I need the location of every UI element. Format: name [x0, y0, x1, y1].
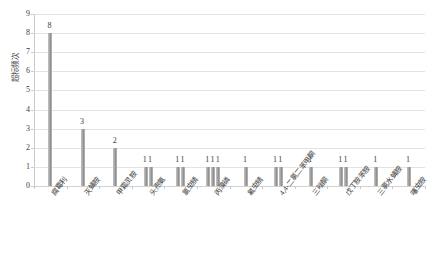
- bar-group[interactable]: 8: [34, 14, 67, 186]
- x-axis-tick-mark: [34, 186, 35, 189]
- bar[interactable]: [279, 167, 283, 186]
- x-axis-tick-mark: [164, 186, 165, 189]
- bar-group[interactable]: 1: [230, 14, 263, 186]
- bar[interactable]: [309, 167, 313, 186]
- y-axis-tick-label: 1: [8, 163, 30, 171]
- bar[interactable]: [211, 167, 215, 186]
- bar[interactable]: [244, 167, 248, 186]
- bar[interactable]: [48, 33, 52, 186]
- bar-group[interactable]: 2: [99, 14, 132, 186]
- y-axis-tick-label: 7: [8, 48, 30, 56]
- bar-group[interactable]: 11: [262, 14, 295, 186]
- x-axis-tick-mark: [132, 186, 133, 189]
- bar-group[interactable]: 11: [327, 14, 360, 186]
- x-axis-tick-mark: [67, 186, 68, 189]
- bar-group[interactable]: 11: [164, 14, 197, 186]
- bar-value-label: 8: [48, 22, 54, 30]
- bar-group[interactable]: 3: [67, 14, 100, 186]
- bar[interactable]: [344, 167, 348, 186]
- bar-value-label: 11: [175, 156, 186, 164]
- y-axis-tick-label: 4: [8, 106, 30, 114]
- y-axis-tick-label: 9: [8, 10, 30, 18]
- x-axis-tick-mark: [425, 186, 426, 189]
- y-axis-tick-label: 0: [8, 182, 30, 190]
- bar[interactable]: [339, 167, 343, 186]
- bar-group[interactable]: 11: [132, 14, 165, 186]
- bar-value-label: 11: [143, 156, 154, 164]
- bar-value-label: 2: [113, 137, 119, 145]
- bar-value-label: 1: [406, 156, 412, 164]
- bar[interactable]: [176, 167, 180, 186]
- bar-group[interactable]: 1: [360, 14, 393, 186]
- x-axis-tick-mark: [295, 186, 296, 189]
- bar[interactable]: [181, 167, 185, 186]
- x-axis-tick-mark: [197, 186, 198, 189]
- bars-layer: 832111111111111111: [34, 14, 425, 187]
- bar-value-label: 11: [273, 156, 284, 164]
- y-axis-tick-label: 8: [8, 29, 30, 37]
- y-axis-tick-label: 3: [8, 125, 30, 133]
- y-axis-tick-label: 2: [8, 144, 30, 152]
- bar[interactable]: [144, 167, 148, 186]
- bar[interactable]: [81, 129, 85, 186]
- bar[interactable]: [374, 167, 378, 186]
- bar-chart: 超标频次 0123456789 832111111111111111 腐霉利灭蝇…: [0, 0, 433, 269]
- bar[interactable]: [113, 148, 117, 186]
- bar[interactable]: [149, 167, 153, 186]
- x-axis-tick-mark: [360, 186, 361, 189]
- x-axis-tick-mark: [230, 186, 231, 189]
- bar-value-label: 111: [205, 156, 221, 164]
- bar-group[interactable]: 111: [197, 14, 230, 186]
- bar-value-label: 3: [80, 118, 86, 126]
- y-axis-tick-label: 6: [8, 67, 30, 75]
- bar[interactable]: [274, 167, 278, 186]
- x-axis-tick-mark: [262, 186, 263, 189]
- bar-value-label: 11: [338, 156, 349, 164]
- x-axis-tick-mark: [99, 186, 100, 189]
- x-axis-tick-mark: [392, 186, 393, 189]
- x-axis-layer: 腐霉利灭蝇胺甲霜灵胺头孢氨氯虫腈丙溴磷氟虫腈4,4-二氯二苯甲酮三唑酮戊丁胺苯胺…: [34, 186, 425, 269]
- y-axis-tick-label: 5: [8, 86, 30, 94]
- bar-value-label: 1: [243, 156, 249, 164]
- bar-value-label: 1: [373, 156, 379, 164]
- x-axis-tick-mark: [327, 186, 328, 189]
- bar[interactable]: [206, 167, 210, 186]
- bar[interactable]: [407, 167, 411, 186]
- bar-group[interactable]: 1: [392, 14, 425, 186]
